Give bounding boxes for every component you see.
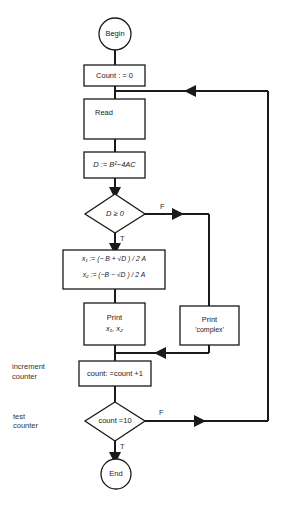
test-false-label: F bbox=[159, 408, 164, 418]
print-complex-line2: 'complex' bbox=[180, 326, 239, 333]
decision-d-false-label: F bbox=[160, 202, 165, 212]
decision-d-label: D ≥ 0 bbox=[95, 209, 135, 218]
decision-d-true-label: T bbox=[120, 234, 125, 244]
print-roots-line2: x₁, x₂ bbox=[84, 324, 145, 333]
roots-line2: x₂ := (−B − √D ) / 2 A bbox=[63, 271, 165, 278]
read-box bbox=[84, 99, 145, 139]
test-label: count =10 bbox=[90, 416, 140, 425]
print-roots-line1: Print bbox=[84, 313, 145, 322]
increment-annotation-line1: increment bbox=[12, 362, 45, 372]
test-annotation-line2: counter bbox=[13, 421, 38, 431]
increment-label: count: =count +1 bbox=[79, 369, 151, 378]
test-true-label: T bbox=[120, 442, 125, 452]
roots-line1: x₁ := (− B + √D ) / 2 A bbox=[63, 255, 165, 262]
init-label: Count : = 0 bbox=[84, 71, 145, 80]
print-complex-line1: Print bbox=[180, 315, 239, 324]
increment-annotation-line2: counter bbox=[12, 372, 37, 382]
begin-label: Begin bbox=[95, 29, 135, 38]
read-label: Read bbox=[84, 108, 124, 117]
discriminant-label: D := B²−4AC bbox=[84, 160, 145, 169]
end-label: End bbox=[96, 469, 136, 478]
